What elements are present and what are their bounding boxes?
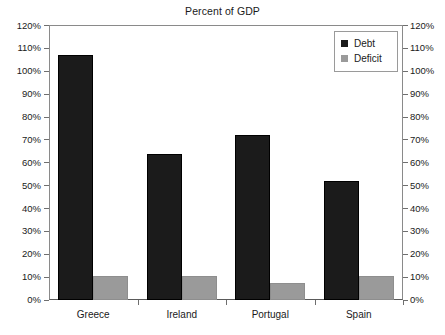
y-axis-left-label: 110% — [17, 43, 41, 53]
y-axis-right-tick — [403, 162, 408, 163]
y-axis-left-label: 0% — [27, 295, 41, 305]
y-axis-right-label: 60% — [410, 158, 429, 168]
x-axis-tick — [315, 300, 316, 305]
bar-debt-spain — [324, 181, 359, 300]
chart-title: Percent of GDP — [0, 5, 445, 17]
bar-deficit-portugal — [270, 283, 305, 300]
y-axis-right-label: 0% — [410, 295, 424, 305]
y-axis-left-label: 60% — [22, 158, 41, 168]
y-axis-left-tick — [44, 71, 49, 72]
legend-label-deficit: Deficit — [354, 53, 382, 64]
x-axis-label-greece: Greece — [49, 309, 138, 320]
y-axis-left-tick — [44, 117, 49, 118]
bar-debt-greece — [58, 55, 93, 300]
y-axis-left-label: 90% — [22, 89, 41, 99]
legend-swatch-debt-icon — [341, 40, 348, 47]
y-axis-right-label: 100% — [410, 66, 434, 76]
y-axis-left-label: 80% — [22, 112, 41, 122]
y-axis-left-label: 30% — [22, 226, 41, 236]
bar-deficit-spain — [359, 276, 394, 300]
y-axis-right-label: 20% — [410, 249, 429, 259]
y-axis-left-tick — [44, 231, 49, 232]
y-axis-right-label: 10% — [410, 272, 429, 282]
bar-debt-portugal — [235, 135, 270, 300]
y-axis-left-label: 70% — [22, 135, 41, 145]
x-axis-label-ireland: Ireland — [138, 309, 227, 320]
y-axis-left-tick — [44, 48, 49, 49]
y-axis-right-label: 40% — [410, 204, 429, 214]
x-axis-tick — [138, 300, 139, 305]
y-axis-left-label: 100% — [17, 66, 41, 76]
y-axis-right-label: 120% — [410, 21, 434, 31]
y-axis-left-label: 120% — [17, 21, 41, 31]
y-axis-right-tick — [403, 254, 408, 255]
legend-label-debt: Debt — [354, 38, 375, 49]
y-axis-right-label: 70% — [410, 135, 429, 145]
y-axis-left-tick — [44, 254, 49, 255]
y-axis-left-tick — [44, 25, 49, 26]
x-axis-tick — [403, 300, 404, 305]
legend-swatch-deficit-icon — [341, 55, 348, 62]
y-axis-right-tick — [403, 48, 408, 49]
y-axis-right-tick — [403, 25, 408, 26]
chart-container: Percent of GDP 120%110%100%90%80%70%60%5… — [0, 0, 445, 335]
y-axis-right-label: 50% — [410, 181, 429, 191]
y-axis-right-tick — [403, 277, 408, 278]
y-axis-left-label: 50% — [22, 181, 41, 191]
y-axis-left-label: 40% — [22, 204, 41, 214]
y-axis-right-tick — [403, 117, 408, 118]
bar-deficit-ireland — [182, 276, 217, 300]
y-axis-left-tick — [44, 94, 49, 95]
y-axis-right-tick — [403, 94, 408, 95]
y-axis-right-label: 110% — [410, 43, 434, 53]
chart-legend: Debt Deficit — [334, 31, 398, 72]
y-axis-left-tick — [44, 162, 49, 163]
bar-deficit-greece — [93, 276, 128, 300]
y-axis-right-tick — [403, 185, 408, 186]
y-axis-right-tick — [403, 71, 408, 72]
y-axis-left-label: 20% — [22, 249, 41, 259]
y-axis-right-tick — [403, 208, 408, 209]
legend-item-debt: Debt — [341, 36, 391, 51]
x-axis-label-spain: Spain — [315, 309, 404, 320]
y-axis-right-tick — [403, 139, 408, 140]
y-axis-left-tick — [44, 300, 49, 301]
y-axis-right-label: 30% — [410, 226, 429, 236]
y-axis-left-tick — [44, 277, 49, 278]
y-axis-left-tick — [44, 208, 49, 209]
x-axis-label-portugal: Portugal — [226, 309, 315, 320]
y-axis-left-label: 10% — [22, 272, 41, 282]
y-axis-left-tick — [44, 185, 49, 186]
y-axis-left-tick — [44, 139, 49, 140]
y-axis-right-tick — [403, 231, 408, 232]
y-axis-right-label: 80% — [410, 112, 429, 122]
y-axis-right-label: 90% — [410, 89, 429, 99]
legend-item-deficit: Deficit — [341, 51, 391, 66]
bar-debt-ireland — [147, 154, 182, 300]
x-axis-tick — [226, 300, 227, 305]
